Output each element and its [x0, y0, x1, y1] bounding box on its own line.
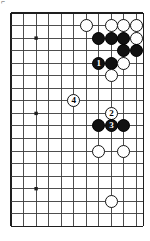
white-stone[interactable] [130, 19, 143, 32]
go-diagram-figure: ⌐ 1423 [0, 0, 150, 241]
star-point [34, 112, 37, 115]
white-stone[interactable] [92, 145, 105, 158]
star-point [34, 187, 37, 190]
move-stone-1[interactable]: 1 [92, 57, 105, 70]
black-stone[interactable] [105, 57, 118, 70]
move-number-label: 4 [68, 95, 79, 106]
black-stone[interactable] [92, 32, 105, 45]
white-stone[interactable] [105, 195, 118, 208]
white-stone[interactable] [80, 19, 93, 32]
move-number-label: 2 [106, 108, 117, 119]
star-point [34, 36, 37, 39]
move-number-label: 1 [93, 58, 104, 69]
white-stone[interactable] [105, 19, 118, 32]
black-stone[interactable] [117, 32, 130, 45]
white-stone[interactable] [117, 145, 130, 158]
move-number-label: 3 [106, 120, 117, 131]
white-stone[interactable] [130, 32, 143, 45]
black-stone[interactable] [105, 32, 118, 45]
move-stone-2[interactable]: 2 [105, 107, 118, 120]
